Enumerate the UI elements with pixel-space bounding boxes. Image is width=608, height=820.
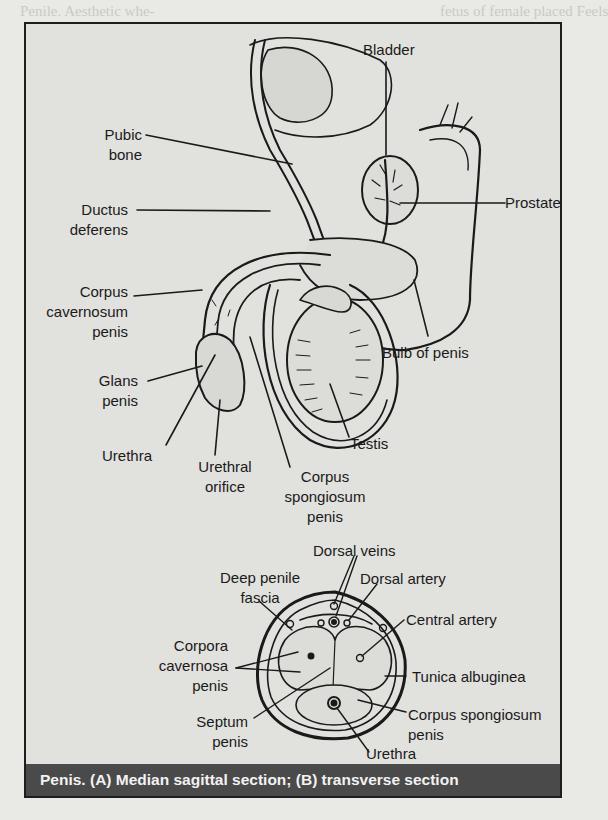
label-corpora-1: Corpora: [120, 636, 228, 655]
transverse-section: [257, 592, 405, 739]
label-corpus-spongiosum-1: Corpus spongiosum: [408, 705, 541, 724]
label-cc-3: penis: [20, 322, 128, 341]
label-corpora-2: cavernosa: [120, 656, 228, 675]
label-cs-3: penis: [270, 507, 380, 526]
label-cc-2: cavernosum: [20, 302, 128, 321]
label-bulb-of-penis: Bulb of penis: [382, 343, 469, 362]
label-urethra: Urethra: [102, 446, 152, 465]
label-deep-fascia-2: fascia: [205, 588, 315, 607]
label-dorsal-artery: Dorsal artery: [360, 569, 446, 588]
label-corpus-spongiosum-2: penis: [408, 725, 444, 744]
sagittal-section: [196, 38, 480, 448]
label-pubic-bone-1: Pubic: [60, 125, 142, 144]
label-cc-1: Corpus: [20, 282, 128, 301]
label-ductus-1: Ductus: [40, 200, 128, 219]
label-cs-1: Corpus: [270, 467, 380, 486]
label-glans-1: Glans: [40, 371, 138, 390]
label-urethral-orifice-1: Urethral: [180, 457, 270, 476]
label-pubic-bone-2: bone: [60, 145, 142, 164]
label-glans-2: penis: [40, 391, 138, 410]
label-septum-2: penis: [150, 732, 248, 751]
label-urethra-transverse: Urethra: [366, 744, 416, 763]
label-dorsal-veins: Dorsal veins: [313, 541, 396, 560]
label-corpora-3: penis: [120, 676, 228, 695]
label-deep-fascia-1: Deep penile: [205, 568, 315, 587]
label-urethral-orifice-2: orifice: [180, 477, 270, 496]
label-septum-1: Septum: [150, 712, 248, 731]
label-tunica-albuginea: Tunica albuginea: [412, 667, 526, 686]
label-ductus-2: deferens: [40, 220, 128, 239]
label-testis: Testis: [350, 434, 388, 453]
label-central-artery: Central artery: [406, 610, 497, 629]
label-cs-2: spongiosum: [270, 487, 380, 506]
label-bladder: Bladder: [363, 40, 415, 59]
label-prostate: Prostate: [505, 193, 561, 212]
